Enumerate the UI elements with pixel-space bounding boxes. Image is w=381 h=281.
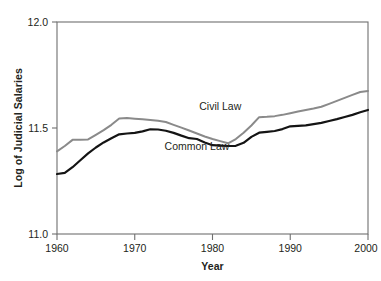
x-tick-label-1990: 1990	[279, 242, 303, 254]
x-tick-label-1980: 1980	[201, 242, 225, 254]
judicial-salaries-chart: 11.0 11.5 12.0 1960 1970 1980 1990 2000 …	[0, 0, 381, 281]
y-tick-label-11-5: 11.5	[28, 122, 48, 134]
y-axis-title: Log of Judicial Salaries	[12, 68, 24, 188]
y-tick-label-12-0: 12.0	[28, 16, 49, 28]
series-label-civil-law: Civil Law	[199, 100, 241, 112]
chart-canvas: 11.0 11.5 12.0 1960 1970 1980 1990 2000 …	[0, 0, 381, 281]
x-tick-label-1960: 1960	[45, 242, 69, 254]
x-tick-label-2000: 2000	[354, 242, 378, 254]
x-tick-label-1970: 1970	[123, 242, 147, 254]
x-axis-title: Year	[201, 260, 224, 272]
series-label-common-law: Common Law	[165, 140, 230, 152]
y-tick-label-11-0: 11.0	[28, 228, 48, 240]
